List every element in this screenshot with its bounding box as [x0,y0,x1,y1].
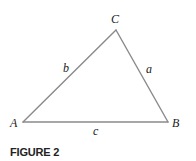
side-label-b: b [63,61,69,75]
vertex-label-c: C [111,12,120,26]
vertex-label-a: A [9,116,18,130]
figure-caption: FIGURE 2 [10,146,59,158]
triangle-figure: C A B b a c FIGURE 2 [0,0,196,161]
vertex-label-b: B [172,116,180,130]
side-label-a: a [146,62,152,76]
side-a-line [116,30,168,122]
side-b-line [23,30,116,122]
side-label-c: c [93,124,99,138]
